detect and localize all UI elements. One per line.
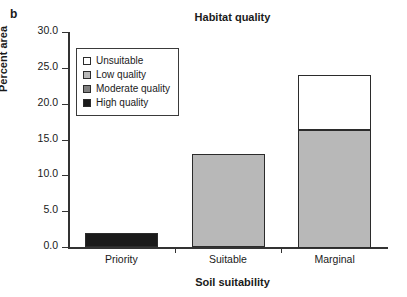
y-tick: 5.0	[62, 211, 68, 212]
bar-segment	[85, 233, 158, 247]
bar-stack	[192, 154, 265, 247]
x-tick	[175, 247, 176, 253]
legend-item: Low quality	[83, 68, 170, 82]
legend-label: Moderate quality	[96, 84, 170, 94]
x-tick-label: Suitable	[178, 254, 278, 265]
y-tick-label: 20.0	[38, 97, 58, 108]
legend-label: High quality	[96, 98, 148, 108]
y-tick-label: 15.0	[38, 133, 58, 144]
y-tick: 10.0	[62, 175, 68, 176]
bar-stack	[85, 233, 158, 247]
x-tick-label: Marginal	[285, 254, 385, 265]
y-tick: 20.0	[62, 104, 68, 105]
y-tick: 0.0	[62, 247, 68, 248]
legend-item: Moderate quality	[83, 82, 170, 96]
legend-label: Unsuitable	[96, 56, 143, 66]
panel-label: b	[10, 8, 17, 20]
bar-stack	[298, 75, 371, 247]
legend-item: Unsuitable	[83, 54, 170, 68]
bar-segment	[192, 154, 265, 247]
y-axis-line	[68, 32, 70, 248]
legend-item: High quality	[83, 96, 170, 110]
legend-swatch	[83, 99, 91, 107]
chart-figure: b Habitat quality Percent area Soil suit…	[0, 0, 407, 297]
x-tick-label: Priority	[71, 254, 171, 265]
y-tick-label: 25.0	[38, 61, 58, 72]
chart-legend: UnsuitableLow qualityModerate qualityHig…	[76, 48, 179, 116]
bar-segment	[298, 75, 371, 130]
legend-swatch	[83, 57, 91, 65]
y-tick-label: 30.0	[38, 25, 58, 36]
y-axis-label: Percent area	[0, 26, 9, 92]
y-tick: 30.0	[62, 32, 68, 33]
legend-label: Low quality	[96, 70, 146, 80]
chart-title: Habitat quality	[60, 12, 405, 23]
x-tick	[281, 247, 282, 253]
legend-swatch	[83, 71, 91, 79]
y-tick-label: 0.0	[43, 240, 58, 251]
y-tick-label: 5.0	[43, 204, 58, 215]
legend-swatch	[83, 85, 91, 93]
bar-segment	[298, 130, 371, 248]
y-tick-label: 10.0	[38, 168, 58, 179]
x-axis-label: Soil suitability	[60, 277, 405, 288]
y-tick: 15.0	[62, 140, 68, 141]
y-tick: 25.0	[62, 68, 68, 69]
